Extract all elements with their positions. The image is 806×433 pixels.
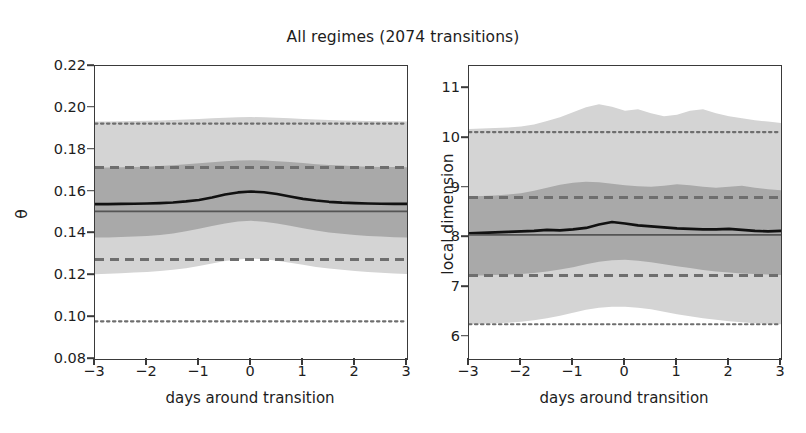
panel-b-x-tick-mark	[675, 358, 677, 365]
panel-a-y-tick-label: 0.10	[14, 308, 86, 324]
panel-b-y-tick-mark	[461, 335, 468, 337]
panel-b-y-axis-label: local dimension	[439, 144, 457, 284]
panel-b-y-tick-label: 10	[420, 129, 460, 145]
panel-a-x-tick-label: −3	[79, 363, 109, 379]
panel-a-x-tick-mark	[249, 358, 251, 365]
panel-b-y-tick-mark	[461, 87, 468, 89]
panel-a-y-tick-label: 0.22	[14, 57, 86, 73]
panel-a-x-tick-mark	[301, 358, 303, 365]
panel-a-x-tick-mark	[405, 358, 407, 365]
panel-a-y-axis-label: θ	[13, 184, 31, 244]
panel-b-x-tick-mark	[519, 358, 521, 365]
panel-a-y-tick-label: 0.20	[14, 99, 86, 115]
panel-b-y-tick-mark	[461, 136, 468, 138]
panel-b-x-tick-mark	[571, 358, 573, 365]
panel-b-y-tick-label: 6	[420, 328, 460, 344]
panel-b-x-tick-mark	[727, 358, 729, 365]
panel-b-x-tick-mark	[779, 358, 781, 365]
panel-a-y-tick-mark	[87, 106, 94, 108]
panel-a-x-axis-label: days around transition	[94, 389, 406, 407]
panel-a-plot-area	[94, 65, 408, 360]
panel-a-x-tick-mark	[93, 358, 95, 365]
figure-root: All regimes (2074 transitions) (a) 0.080…	[0, 0, 806, 433]
panel-a-y-tick-mark	[87, 315, 94, 317]
panel-a-x-tick-label: 0	[235, 363, 265, 379]
panel-b-x-axis-label: days around transition	[468, 389, 780, 407]
panel-a-x-tick-label: 2	[339, 363, 369, 379]
panel-b-x-tick-label: −3	[453, 363, 483, 379]
panel-b: (b) 67891011 −3−2−10123 local dimension …	[420, 0, 806, 433]
panel-b-x-tick-label: −2	[505, 363, 535, 379]
panel-a-y-tick-label: 0.08	[14, 350, 86, 366]
panel-a-x-tick-label: 1	[287, 363, 317, 379]
panel-b-y-tick-label: 11	[420, 79, 460, 95]
panel-a-y-tick-mark	[87, 190, 94, 192]
panel-a-x-tick-mark	[145, 358, 147, 365]
panel-a-x-tick-label: −2	[131, 363, 161, 379]
panel-a-x-tick-label: −1	[183, 363, 213, 379]
panel-a: (a) 0.080.100.120.140.160.180.200.22 −3−…	[0, 0, 420, 433]
panel-a-y-tick-mark	[87, 273, 94, 275]
panel-a-x-tick-mark	[197, 358, 199, 365]
panel-a-x-tick-mark	[353, 358, 355, 365]
panel-b-x-tick-mark	[623, 358, 625, 365]
panel-b-x-tick-label: 1	[661, 363, 691, 379]
panel-b-x-tick-label: 0	[609, 363, 639, 379]
panel-b-x-tick-mark	[467, 358, 469, 365]
panel-b-plot-area	[468, 65, 782, 360]
panel-b-y-tick-mark	[461, 285, 468, 287]
panel-a-y-tick-mark	[87, 148, 94, 150]
panel-b-y-tick-mark	[461, 186, 468, 188]
panel-b-x-tick-label: −1	[557, 363, 587, 379]
panel-a-y-tick-label: 0.18	[14, 141, 86, 157]
panel-a-x-tick-label: 3	[391, 363, 421, 379]
panel-a-y-tick-mark	[87, 232, 94, 234]
panel-b-y-tick-mark	[461, 236, 468, 238]
panel-a-plot-svg	[95, 66, 407, 359]
panel-a-y-tick-mark	[87, 64, 94, 66]
panel-b-plot-svg	[469, 66, 781, 359]
panel-a-y-tick-label: 0.12	[14, 266, 86, 282]
panel-b-x-tick-label: 2	[713, 363, 743, 379]
panel-b-x-tick-label: 3	[765, 363, 795, 379]
